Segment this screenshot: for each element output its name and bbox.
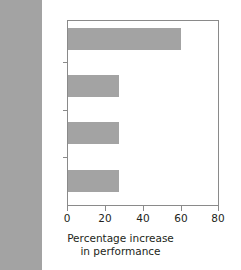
x-axis-tick-label: 40 <box>123 212 163 224</box>
bar-goals-and-feedback <box>68 75 119 97</box>
x-axis-title: Percentage increase in performance <box>0 232 241 258</box>
x-axis-tick <box>218 206 219 211</box>
x-axis-tick-label: 20 <box>85 212 125 224</box>
x-axis-tick-label: 60 <box>161 212 201 224</box>
bar-chart: Control group Goals and feedback Feedbac… <box>0 0 42 270</box>
y-axis-tick <box>63 62 67 63</box>
bar-goals-only <box>68 170 119 192</box>
x-axis-tick-label: 80 <box>198 212 238 224</box>
x-axis-tick-label: 0 <box>47 212 87 224</box>
y-axis-tick <box>63 110 67 111</box>
x-axis-tick <box>143 206 144 211</box>
x-axis-tick <box>181 206 182 211</box>
bar-feedback-only <box>68 122 119 144</box>
bar-control-group <box>68 28 181 50</box>
x-axis-tick <box>105 206 106 211</box>
x-axis-tick <box>67 206 68 211</box>
y-axis-tick <box>63 157 67 158</box>
